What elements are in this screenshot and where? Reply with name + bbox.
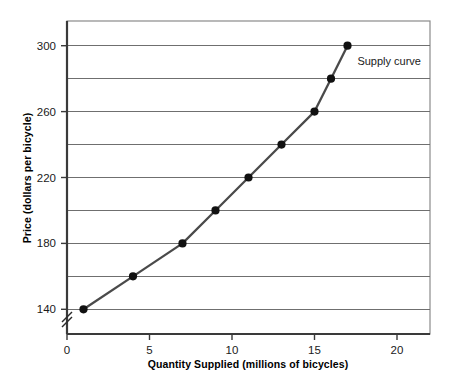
y-tick-label: 220 [37, 172, 56, 184]
data-point [211, 206, 219, 214]
data-point [327, 75, 335, 83]
x-tick-label: 5 [146, 344, 152, 356]
supply-curve-annotation: Supply curve [357, 55, 421, 67]
x-axis-title: Quantity Supplied (millions of bicycles) [148, 358, 349, 370]
data-point [343, 42, 351, 50]
x-tick-label: 10 [226, 344, 239, 356]
y-tick-label: 300 [37, 40, 56, 52]
supply-curve-chart: 140180220260300 05101520 Supply curve Qu… [0, 0, 461, 383]
data-point [277, 140, 285, 148]
y-tick-label: 140 [37, 303, 56, 315]
y-tick-label: 260 [37, 106, 56, 118]
data-point [129, 272, 137, 280]
x-tick-label: 15 [308, 344, 321, 356]
data-point [310, 108, 318, 116]
chart-figure: 140180220260300 05101520 Supply curve Qu… [0, 0, 461, 383]
y-tick-label: 180 [37, 237, 56, 249]
data-point [79, 305, 87, 313]
x-tick-label: 20 [391, 344, 404, 356]
data-point [178, 239, 186, 247]
x-tick-label: 0 [64, 344, 70, 356]
y-axis-title: Price (dollars per bicycle) [21, 113, 33, 244]
data-point [244, 173, 252, 181]
